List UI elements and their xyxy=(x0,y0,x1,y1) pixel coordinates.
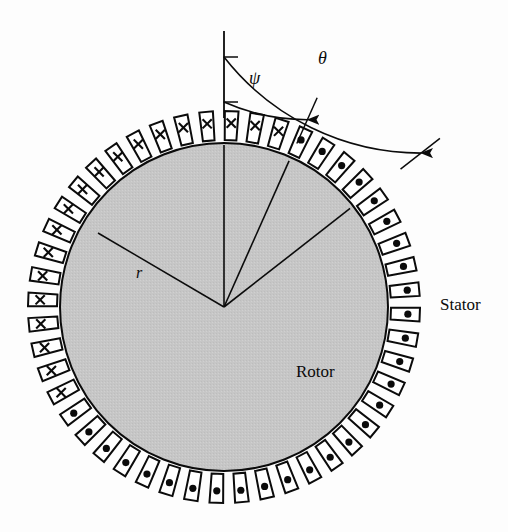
conductor-dot-icon xyxy=(387,380,394,387)
stator-slot xyxy=(38,359,70,381)
stator-slot xyxy=(35,242,66,263)
stator-label: Stator xyxy=(440,296,481,313)
conductor-dot-icon xyxy=(213,487,220,494)
theta-angle-label: θ xyxy=(318,49,327,67)
conductor-dot-icon xyxy=(327,454,334,461)
conductor-dot-icon xyxy=(400,263,407,270)
conductor-dot-icon xyxy=(356,179,363,186)
stator-slot xyxy=(199,111,214,141)
stator-slot xyxy=(28,292,57,306)
conductor-dot-icon xyxy=(122,459,129,466)
conductor-dot-icon xyxy=(189,485,196,492)
stator-slot xyxy=(150,121,172,153)
stator-slot xyxy=(28,316,58,331)
rotor-label: Rotor xyxy=(296,363,335,380)
conductor-dot-icon xyxy=(345,439,352,446)
conductor-dot-icon xyxy=(284,476,291,483)
stator-slot xyxy=(30,267,61,284)
conductor-dot-icon xyxy=(402,335,409,342)
conductor-dot-icon xyxy=(338,162,345,169)
conductor-dot-icon xyxy=(70,410,77,417)
conductor-dot-icon xyxy=(404,287,411,294)
stator-slot xyxy=(174,114,193,145)
conductor-dot-icon xyxy=(306,466,313,473)
conductor-dot-icon xyxy=(376,402,383,409)
stator-slot xyxy=(31,338,62,357)
radius-label: r xyxy=(136,265,142,281)
conductor-dot-icon xyxy=(383,218,390,225)
stator-slot xyxy=(268,118,289,149)
stator-slot xyxy=(247,113,264,144)
conductor-dot-icon xyxy=(166,479,173,486)
conductor-dot-icon xyxy=(393,240,400,247)
conductor-dot-icon xyxy=(85,428,92,435)
conductor-dot-icon xyxy=(396,358,403,365)
stator-slot xyxy=(43,219,75,243)
conductor-dot-icon xyxy=(362,421,369,428)
conductor-dot-icon xyxy=(371,197,378,204)
conductor-dot-icon xyxy=(319,148,326,155)
figure-page: Stator Rotor θ ψ r xyxy=(0,0,508,532)
conductor-dot-icon xyxy=(143,470,150,477)
theta-terminal-tick xyxy=(401,138,440,169)
psi-angle-label: ψ xyxy=(249,69,260,87)
conductor-dot-icon xyxy=(237,487,244,494)
conductor-dot-icon xyxy=(261,483,268,490)
conductor-dot-icon xyxy=(404,311,411,318)
stator-slot xyxy=(225,111,239,140)
conductor-dot-icon xyxy=(103,445,110,452)
